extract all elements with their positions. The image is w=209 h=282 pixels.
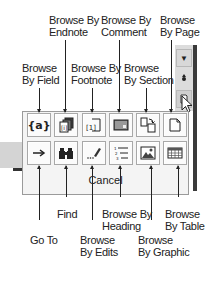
numbered-list-icon: 1 2 3 [113, 145, 129, 161]
label-browse-by-edits: Browse By Edits [80, 234, 118, 258]
browse-by-table-button[interactable] [163, 141, 187, 165]
callout-line-edits [92, 166, 93, 220]
label-find: Find [57, 208, 77, 220]
triangle-down-icon: ▼ [180, 54, 188, 63]
footnote-icon: [1] [85, 117, 103, 133]
field-braces-icon: {a} [27, 119, 50, 132]
previous-page-button[interactable]: ▼ [176, 49, 192, 67]
label-browse-by-table: Browse By Table [165, 208, 205, 232]
browse-by-heading-button[interactable]: 1 2 3 [109, 141, 133, 165]
callout-line-field [39, 88, 40, 112]
cancel-button[interactable]: Cancel [23, 174, 188, 186]
label-browse-by-page: Browse By Page [160, 14, 199, 38]
callout-line-section [146, 88, 147, 112]
browse-by-field-button[interactable]: {a} [27, 113, 51, 137]
find-button[interactable] [54, 141, 78, 165]
label-go-to: Go To [30, 234, 58, 246]
table-icon [167, 147, 183, 159]
label-browse-by-comment: Browse By Comment [101, 14, 151, 38]
scrollbar-edge [193, 45, 197, 191]
browse-by-graphic-button[interactable] [136, 141, 160, 165]
select-browse-object-button[interactable] [176, 69, 192, 87]
browse-by-edits-button[interactable] [82, 141, 106, 165]
pencil-edit-icon [86, 145, 102, 161]
go-to-button[interactable] [27, 141, 51, 165]
browse-dot-icon [180, 74, 188, 82]
callout-line-heading [120, 166, 121, 197]
browse-by-comment-button[interactable] [109, 113, 133, 137]
label-browse-by-field: Browse By Field [22, 62, 59, 86]
callout-line-goto [39, 166, 40, 220]
browse-object-panel: {a} [i] [1] [22, 111, 189, 195]
arrow-right-icon [32, 148, 46, 158]
callout-line-find [66, 166, 67, 197]
label-browse-by-footnote: Browse By Footnote [71, 62, 121, 86]
document-window-edge [0, 142, 22, 168]
page-icon [168, 117, 182, 133]
comment-icon [113, 119, 129, 131]
label-browse-by-endnote: Browse By Endnote [49, 14, 99, 38]
svg-text:3: 3 [116, 156, 119, 161]
callout-line-endnote [65, 40, 66, 112]
browse-by-footnote-button[interactable]: [1] [82, 113, 106, 137]
svg-text:[i]: [i] [61, 124, 67, 131]
browse-by-section-button[interactable] [136, 113, 160, 137]
callout-line-footnote [92, 88, 93, 112]
browse-by-endnote-button[interactable]: [i] [54, 113, 78, 137]
label-browse-by-section: Browse By Section [124, 62, 174, 86]
callout-line-table [178, 166, 179, 197]
svg-text:[1]: [1] [86, 124, 96, 132]
document-window-edge-shadow [13, 168, 22, 171]
endnote-stack-icon: [i] [57, 117, 75, 133]
label-browse-by-graphic: Browse By Graphic [138, 234, 189, 258]
browse-by-page-button[interactable] [163, 113, 187, 137]
picture-icon [140, 146, 156, 160]
binoculars-icon [58, 146, 74, 160]
section-icon [139, 116, 157, 134]
label-browse-by-heading: Browse By Heading [102, 208, 152, 232]
